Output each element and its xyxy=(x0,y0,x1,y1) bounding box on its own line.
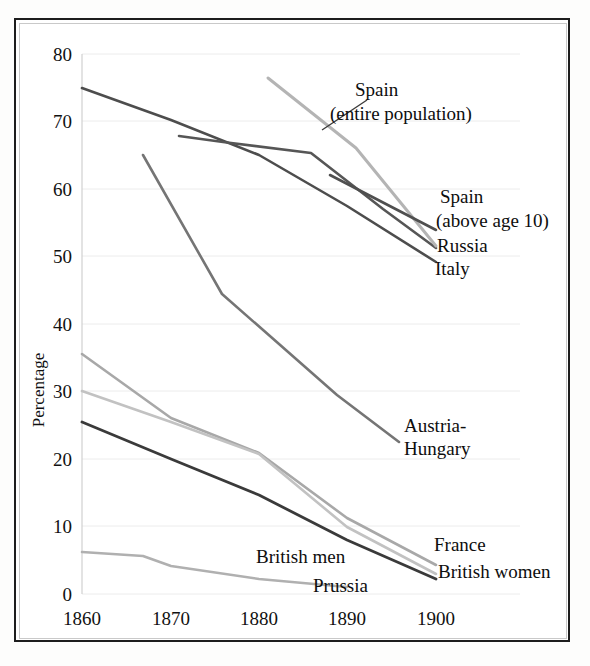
plot-area: 80 70 60 50 40 30 20 10 0 1860 1870 1880… xyxy=(0,0,590,666)
y-axis-title: Percentage xyxy=(29,353,48,428)
series-label-british-women: British women xyxy=(438,561,551,582)
series-label-france: France xyxy=(434,534,486,555)
series-line-austria-hungary xyxy=(143,155,399,442)
series-label-spain-entire-population-line2: (entire population) xyxy=(330,103,472,125)
y-tick-label-40: 40 xyxy=(53,314,72,335)
series-label-spain-above-age-10-line1: Spain xyxy=(440,186,484,207)
y-tick-label-60: 60 xyxy=(53,179,72,200)
x-tick-label-1880: 1880 xyxy=(240,608,278,629)
y-tick-label-10: 10 xyxy=(53,516,72,537)
gridlines xyxy=(82,54,520,594)
series-label-austria-hungary-line1: Austria- xyxy=(404,415,466,436)
y-tick-label-50: 50 xyxy=(53,246,72,267)
illiteracy-line-chart-figure: 80 70 60 50 40 30 20 10 0 1860 1870 1880… xyxy=(0,0,590,666)
y-tick-label-0: 0 xyxy=(63,584,73,605)
x-tick-label-1860: 1860 xyxy=(63,608,101,629)
series-line-russia xyxy=(179,136,436,248)
y-tick-label-20: 20 xyxy=(53,449,72,470)
series-label-russia: Russia xyxy=(437,235,488,256)
x-tick-label-1900: 1900 xyxy=(417,608,455,629)
chart-svg: 80 70 60 50 40 30 20 10 0 1860 1870 1880… xyxy=(0,0,590,666)
y-tick-label-70: 70 xyxy=(53,111,72,132)
series-label-italy: Italy xyxy=(435,258,470,279)
y-tick-label-80: 80 xyxy=(53,44,72,65)
y-tick-label-30: 30 xyxy=(53,381,72,402)
x-tick-label-1870: 1870 xyxy=(152,608,190,629)
series-label-austria-hungary-line2: Hungary xyxy=(404,438,471,459)
series-label-prussia: Prussia xyxy=(313,575,368,596)
series-label-spain-entire-population-line1: Spain xyxy=(355,79,399,100)
series-label-spain-above-age-10-line2: (above age 10) xyxy=(436,210,549,232)
x-tick-label-1890: 1890 xyxy=(328,608,366,629)
series-label-british-men: British men xyxy=(256,546,346,567)
